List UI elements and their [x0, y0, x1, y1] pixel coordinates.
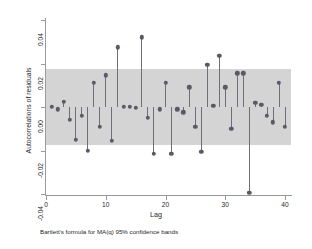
- acf-point: [217, 54, 221, 58]
- x-tick-label: 10: [102, 201, 109, 208]
- acf-point: [139, 35, 143, 39]
- acf-stem: [279, 83, 280, 107]
- acf-stem: [75, 107, 76, 140]
- y-tick-label: 0.04: [37, 20, 44, 60]
- y-axis-label: Autocorrelations of residuals: [25, 36, 32, 186]
- x-tick-mark: [285, 196, 286, 200]
- x-tick-label: 30: [222, 201, 229, 208]
- acf-stem: [249, 107, 250, 193]
- confidence-band: [46, 69, 291, 145]
- x-tick-mark: [106, 196, 107, 200]
- acf-stem: [153, 107, 154, 154]
- acf-stem: [117, 47, 118, 107]
- acf-stem: [219, 56, 220, 107]
- acf-stem: [93, 83, 94, 107]
- acf-stem: [243, 73, 244, 107]
- acf-stem: [231, 107, 232, 129]
- acf-point: [169, 152, 173, 156]
- acf-stem: [237, 73, 238, 107]
- y-tick-label: 0.02: [37, 63, 44, 103]
- x-tick-mark: [225, 196, 226, 200]
- acf-stem: [171, 107, 172, 154]
- acf-point: [205, 62, 209, 66]
- x-tick-label: 20: [162, 201, 169, 208]
- acf-stem: [189, 87, 190, 107]
- acf-stem: [201, 107, 202, 152]
- y-tick-label: 0.00: [37, 107, 44, 147]
- acf-stem: [141, 37, 142, 107]
- y-axis-line: [45, 18, 46, 196]
- acf-chart-figure: 0.040.020.00-0.02-0.04 010203040 Autocor…: [0, 0, 312, 249]
- acf-stem: [105, 75, 106, 107]
- acf-point: [86, 148, 90, 152]
- acf-point: [116, 45, 120, 49]
- chart-footnote: Bartlett's formula for MA(q) 95% confide…: [40, 228, 178, 235]
- x-tick-mark: [46, 196, 47, 200]
- acf-stem: [207, 65, 208, 107]
- acf-stem: [87, 107, 88, 151]
- x-tick-label: 0: [44, 201, 48, 208]
- plot-area: [46, 20, 291, 194]
- x-axis-line: [45, 195, 292, 196]
- y-tick-label: -0.02: [37, 150, 44, 190]
- acf-stem: [225, 87, 226, 107]
- acf-point: [151, 152, 155, 156]
- x-tick-label: 40: [281, 201, 288, 208]
- acf-stem: [111, 107, 112, 141]
- x-tick-mark: [166, 196, 167, 200]
- acf-point: [199, 149, 203, 153]
- x-axis-label: Lag: [0, 210, 312, 219]
- acf-stem: [165, 83, 166, 107]
